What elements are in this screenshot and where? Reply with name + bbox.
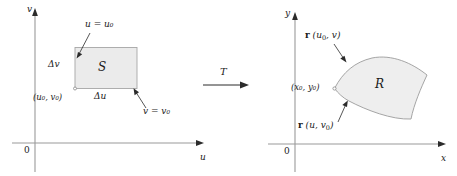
region-r-corner-dot: [333, 87, 336, 90]
label-r-u-v0: r (u, v0): [298, 121, 333, 131]
y-axis-label: y: [285, 9, 290, 18]
transformation-label: T: [220, 67, 227, 77]
region-s-label: S: [98, 61, 106, 73]
diagram-graphics: [0, 0, 457, 176]
label-delta-u: Δu: [94, 92, 106, 101]
label-delta-u-text: Δu: [94, 91, 106, 101]
label-v-equals-v0-text: v = v₀: [143, 106, 170, 116]
x-axis-arrowhead: [438, 141, 446, 147]
v-axis-label: v: [27, 5, 32, 14]
label-delta-v: Δv: [48, 60, 60, 69]
label-u-equals-u0-text: u = u₀: [85, 19, 113, 29]
transformation-arrow: [203, 82, 249, 89]
label-r-u-v0-args: (u, v0): [303, 120, 334, 130]
label-xy-corner-point: (x₀, y₀): [291, 83, 319, 92]
label-r-u0-v: r (u0, v): [305, 31, 340, 41]
region-r-label: R: [375, 78, 384, 90]
u-axis-arrowhead: [196, 140, 204, 146]
left-origin-label: 0: [24, 146, 30, 155]
label-uv-corner-point-text: (u₀, v₀): [33, 92, 62, 102]
leader-r-u0-v: [334, 44, 347, 63]
right-origin-label: 0: [284, 147, 290, 156]
label-xy-corner-point-text: (x₀, y₀): [291, 82, 319, 92]
label-uv-corner-point: (u₀, v₀): [33, 93, 62, 102]
left-axes: [12, 8, 204, 172]
figure-canvas: v u 0 S u = u₀ v = v₀ (u₀, v₀) Δu Δv T y…: [0, 0, 457, 176]
y-axis-arrowhead: [292, 12, 298, 20]
label-v-equals-v0: v = v₀: [143, 107, 170, 116]
label-u-equals-u0: u = u₀: [85, 20, 113, 29]
x-axis-label: x: [441, 154, 446, 163]
label-delta-v-text: Δv: [48, 59, 60, 69]
u-axis-label: u: [200, 153, 206, 162]
leader-r-u-v0: [338, 101, 348, 123]
v-axis-arrowhead: [32, 8, 38, 16]
label-r-u0-v-args: (u0, v): [310, 30, 341, 40]
rectangle-s-corner-dot: [74, 87, 77, 90]
